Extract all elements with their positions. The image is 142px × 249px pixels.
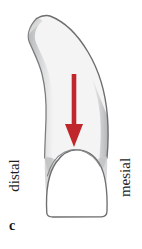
label-mesial: mesial xyxy=(118,148,133,208)
tooth-diagram xyxy=(16,6,120,222)
label-distal: distal xyxy=(7,148,22,204)
figure-panel-c: distal mesial c xyxy=(0,0,142,249)
figure-letter-label: c xyxy=(9,219,15,233)
tooth-root xyxy=(28,15,108,158)
